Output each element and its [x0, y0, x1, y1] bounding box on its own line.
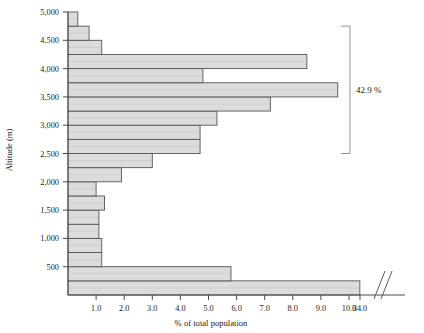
x-axis-title: % of total population: [175, 318, 248, 328]
y-axis: 5001,0001,5002,0002,5003,0003,5004,0004,…: [40, 8, 68, 295]
x-axis-tick-label: 3.0: [147, 304, 157, 313]
bars-group: [68, 12, 360, 295]
x-axis-tick-label: 8.0: [288, 304, 298, 313]
chart-canvas: 5001,0001,5002,0002,5003,0003,5004,0004,…: [0, 0, 424, 333]
y-axis-tick-label: 1,500: [40, 206, 59, 215]
x-axis-tick-label: 9.0: [316, 304, 326, 313]
bracket-shape: [341, 26, 350, 153]
y-axis-tick-label: 2,000: [40, 178, 59, 187]
y-axis-tick-label: 1,000: [40, 234, 59, 243]
y-axis-tick-label: 2,500: [40, 150, 59, 159]
y-axis-title: Altitude (m): [4, 129, 14, 172]
x-axis-tick-label: 6.0: [231, 304, 241, 313]
x-axis-tick-label: 34.0: [353, 304, 368, 313]
x-axis-tick-label: 1.0: [91, 304, 101, 313]
x-axis-tick-label: 4.0: [175, 304, 185, 313]
altitude-population-chart: 5001,0001,5002,0002,5003,0003,5004,0004,…: [0, 0, 424, 333]
x-axis-tick-label: 5.0: [203, 304, 213, 313]
y-axis-tick-label: 3,500: [40, 93, 59, 102]
y-axis-tick-label: 500: [47, 263, 59, 272]
x-axis-tick-label: 7.0: [260, 304, 270, 313]
y-axis-tick-label: 4,500: [40, 36, 59, 45]
y-axis-tick-label: 5,000: [40, 8, 59, 17]
bracket-annotation: 42.9 %: [341, 26, 382, 153]
y-axis-tick-label: 3,000: [40, 121, 59, 130]
bracket-label: 42.9 %: [356, 85, 382, 95]
y-axis-tick-label: 4,000: [40, 65, 59, 74]
x-axis-tick-label: 2.0: [119, 304, 129, 313]
